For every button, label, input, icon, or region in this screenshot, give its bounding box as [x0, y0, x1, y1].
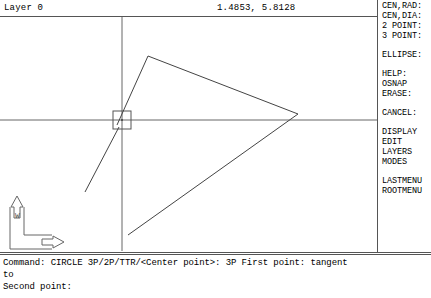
tangent-construction-line[interactable] [85, 127, 119, 192]
drawing-canvas[interactable]: W [0, 17, 377, 253]
screen-menu-separator [378, 167, 431, 176]
ucs-icon [10, 196, 64, 249]
screen-menu-item[interactable]: MODES [378, 157, 431, 167]
screen-menu-item[interactable]: 3 POINT: [378, 31, 431, 41]
screen-menu-item[interactable]: CANCEL: [378, 108, 431, 118]
pickbox-center-dot [121, 119, 123, 121]
screen-menu-item[interactable]: CEN,DIA: [378, 11, 431, 21]
screen-menu-separator [378, 99, 431, 108]
triangle-edge-right[interactable] [128, 114, 298, 235]
triangle-edge-top[interactable] [148, 56, 298, 114]
screen-menu-panel[interactable]: CEN,RAD:CEN,DIA:2 POINT:3 POINT:ELLIPSE:… [377, 0, 431, 253]
screen-menu-item[interactable]: ROOTMENU [378, 186, 431, 196]
screen-menu-item[interactable]: DISPLAY [378, 127, 431, 137]
coordinate-readout[interactable]: 1.4853, 5.8128 [217, 3, 295, 13]
ucs-icon-x-arrow [42, 236, 64, 248]
status-bar: Layer 0 1.4853, 5.8128 [0, 0, 377, 17]
drawing-geometry [0, 17, 377, 253]
screen-menu-item[interactable]: OSNAP [378, 79, 431, 89]
screen-menu-item[interactable]: HELP: [378, 69, 431, 79]
screen-menu-item[interactable]: LAYERS [378, 147, 431, 157]
ucs-icon-inner-corner [24, 207, 52, 235]
screen-menu-item[interactable]: 2 POINT: [378, 21, 431, 31]
screen-menu-separator [378, 60, 431, 69]
screen-menu-item[interactable]: ELLIPSE: [378, 50, 431, 60]
ucs-icon-w-label: W [15, 211, 20, 220]
screen-menu-item[interactable]: ERASE: [378, 89, 431, 99]
command-prompt-line[interactable]: Second point: [3, 281, 431, 293]
screen-menu-separator [378, 41, 431, 50]
cad-application-window: Layer 0 1.4853, 5.8128 [0, 0, 431, 298]
screen-menu-item[interactable]: EDIT [378, 137, 431, 147]
crosshair-cursor [0, 17, 377, 251]
command-history-line-2: to [3, 269, 431, 281]
screen-menu-item[interactable]: LASTMENU [378, 176, 431, 186]
triangle-entity[interactable] [117, 56, 298, 235]
screen-menu-separator [378, 118, 431, 127]
command-line-area[interactable]: Command: CIRCLE 3P/2P/TTR/<Center point>… [0, 254, 431, 298]
current-layer-indicator[interactable]: Layer 0 [4, 3, 43, 13]
command-history-line-1: Command: CIRCLE 3P/2P/TTR/<Center point>… [3, 257, 431, 269]
screen-menu-item[interactable]: CEN,RAD: [378, 1, 431, 11]
